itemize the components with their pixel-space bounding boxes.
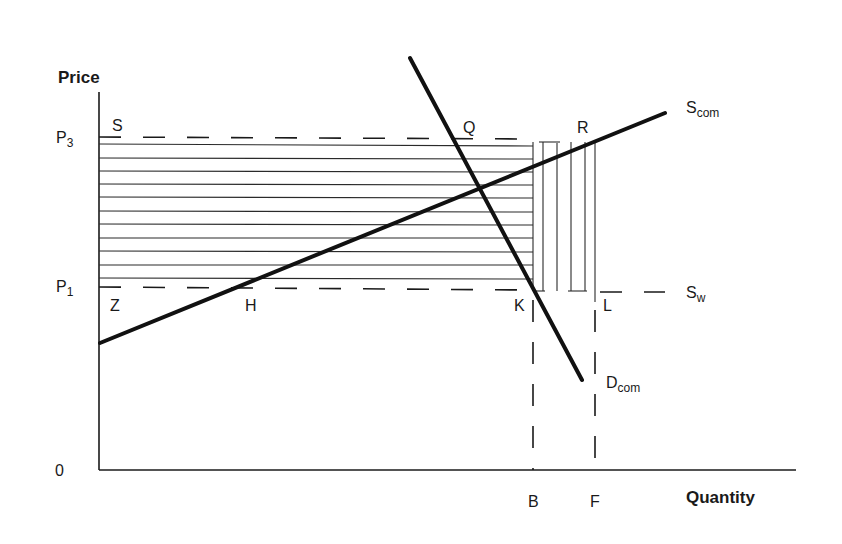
quantity-dashed-lines xyxy=(533,300,595,470)
p1-label: P1 xyxy=(56,278,74,299)
demand-com-label: Dcom xyxy=(606,374,640,395)
supply-world-label: Sw xyxy=(686,284,706,305)
point-h-label: H xyxy=(245,297,257,314)
vertical-hatch xyxy=(533,142,595,302)
supply-com-curve xyxy=(100,113,665,343)
b-label: B xyxy=(528,493,539,510)
p1-dashed-line xyxy=(99,287,533,290)
f-label: F xyxy=(590,493,600,510)
y-axis-label: Price xyxy=(58,68,100,87)
demand-com-curve xyxy=(410,58,582,380)
axes xyxy=(99,92,796,470)
origin-label: 0 xyxy=(55,462,64,479)
point-s-label: S xyxy=(112,117,123,134)
supply-com-label: Scom xyxy=(686,99,719,120)
point-z-label: Z xyxy=(110,297,120,314)
x-axis-label: Quantity xyxy=(686,488,755,507)
point-l-label: L xyxy=(603,297,612,314)
point-q-label: Q xyxy=(463,119,475,136)
p3-dashed-line xyxy=(99,137,533,139)
economics-diagram: Price Quantity 0 P3 P1 B F S Q R Z H K L… xyxy=(0,0,842,544)
point-k-label: K xyxy=(514,297,525,314)
price-dashed-lines xyxy=(99,137,665,292)
p3-label: P3 xyxy=(56,129,74,150)
point-r-label: R xyxy=(577,119,589,136)
